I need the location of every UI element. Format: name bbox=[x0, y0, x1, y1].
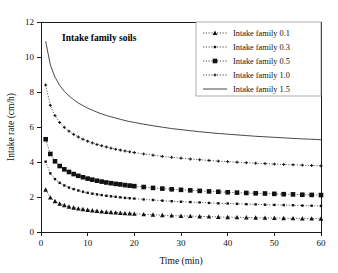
series-marker bbox=[301, 204, 303, 206]
series-marker bbox=[85, 176, 90, 181]
series-marker bbox=[207, 189, 212, 194]
series-marker bbox=[55, 114, 56, 117]
series-marker bbox=[82, 191, 84, 193]
series-marker bbox=[310, 205, 312, 207]
series-marker bbox=[180, 201, 182, 203]
series-marker bbox=[160, 186, 165, 191]
series-marker bbox=[216, 189, 221, 194]
series-marker bbox=[281, 192, 286, 197]
series-marker bbox=[265, 162, 266, 165]
series-marker bbox=[58, 182, 60, 184]
series-marker bbox=[113, 182, 118, 187]
series-marker bbox=[99, 179, 104, 184]
x-axis-ticks: 0102030405060 bbox=[39, 232, 326, 248]
series-marker bbox=[43, 137, 48, 142]
series-marker bbox=[54, 178, 56, 180]
series-marker bbox=[198, 201, 200, 203]
series-marker bbox=[246, 161, 247, 164]
series-marker bbox=[272, 192, 277, 197]
series-marker bbox=[189, 201, 191, 203]
series-marker bbox=[199, 158, 200, 161]
series-marker bbox=[123, 183, 128, 188]
y-axis-title: Intake rate (cm/h) bbox=[6, 93, 17, 161]
series-marker bbox=[302, 164, 303, 167]
series-marker bbox=[273, 204, 275, 206]
series-marker bbox=[300, 192, 305, 197]
series-marker bbox=[132, 184, 137, 189]
x-tick-label: 30 bbox=[177, 238, 187, 248]
series-marker bbox=[161, 199, 163, 201]
x-axis-title: Time (min) bbox=[159, 256, 202, 267]
series-marker bbox=[190, 158, 191, 161]
series-marker bbox=[96, 193, 98, 195]
series-marker bbox=[87, 140, 88, 143]
series-marker bbox=[118, 182, 123, 187]
series-marker bbox=[53, 159, 58, 164]
series-marker bbox=[68, 186, 70, 188]
series-marker bbox=[59, 121, 60, 124]
series-marker bbox=[97, 143, 98, 146]
y-tick-label: 8 bbox=[30, 87, 35, 97]
series-marker bbox=[105, 195, 107, 197]
series-marker bbox=[282, 204, 284, 206]
series-marker bbox=[225, 190, 230, 195]
series-marker bbox=[129, 150, 130, 153]
series-marker bbox=[114, 196, 116, 198]
x-tick-label: 0 bbox=[39, 238, 44, 248]
series-marker bbox=[92, 141, 93, 144]
series-marker bbox=[95, 178, 100, 183]
series-marker bbox=[319, 193, 324, 198]
series-marker bbox=[292, 204, 294, 206]
plot-annotation-label: Intake family soils bbox=[62, 33, 137, 43]
series-marker bbox=[311, 164, 312, 167]
series-marker bbox=[151, 186, 156, 191]
series-marker bbox=[152, 199, 154, 201]
series-marker bbox=[73, 133, 74, 136]
series-marker bbox=[213, 59, 218, 64]
series-marker bbox=[209, 159, 210, 162]
series-marker bbox=[253, 191, 258, 196]
x-tick-label: 10 bbox=[83, 238, 93, 248]
y-tick-label: 4 bbox=[30, 157, 35, 167]
legend-item-label: Intake family 0.1 bbox=[233, 29, 290, 38]
series-marker bbox=[237, 161, 238, 164]
series-marker bbox=[197, 189, 202, 194]
legend-item-label: Intake family 1.5 bbox=[233, 85, 290, 94]
x-tick-label: 40 bbox=[223, 238, 233, 248]
series-marker bbox=[110, 195, 112, 197]
series-marker bbox=[226, 202, 228, 204]
series-marker bbox=[142, 198, 144, 200]
series-marker bbox=[153, 154, 154, 157]
y-tick-label: 10 bbox=[25, 52, 35, 62]
series-marker bbox=[125, 149, 126, 152]
intake-rate-line-chart: 0102030405060 024681012 Intake family so… bbox=[0, 0, 338, 273]
series-marker bbox=[78, 135, 79, 138]
legend-item-label: Intake family 1.0 bbox=[233, 71, 290, 80]
series-marker bbox=[50, 104, 51, 107]
series-marker bbox=[309, 193, 314, 198]
legend-item-label: Intake family 0.3 bbox=[233, 43, 290, 52]
series-marker bbox=[171, 156, 172, 159]
series-marker bbox=[255, 162, 256, 165]
series-marker bbox=[62, 167, 67, 172]
series-marker bbox=[91, 192, 93, 194]
series-marker bbox=[44, 160, 46, 162]
series-marker bbox=[76, 174, 81, 179]
y-tick-label: 12 bbox=[25, 17, 34, 27]
series-marker bbox=[90, 177, 95, 182]
x-tick-label: 50 bbox=[270, 238, 280, 248]
series-marker bbox=[264, 204, 266, 206]
y-tick-label: 0 bbox=[30, 227, 35, 237]
y-tick-label: 6 bbox=[30, 122, 35, 132]
legend-item-label: Intake family 0.5 bbox=[233, 57, 290, 66]
y-axis-ticks: 024681012 bbox=[25, 17, 41, 237]
series-marker bbox=[67, 170, 72, 175]
series-marker bbox=[71, 172, 76, 177]
series-marker bbox=[133, 197, 135, 199]
series-marker bbox=[320, 205, 322, 207]
series-marker bbox=[208, 202, 210, 204]
series-marker bbox=[214, 46, 216, 48]
series-marker bbox=[181, 157, 182, 160]
series-marker bbox=[244, 191, 249, 196]
series-marker bbox=[293, 163, 294, 166]
